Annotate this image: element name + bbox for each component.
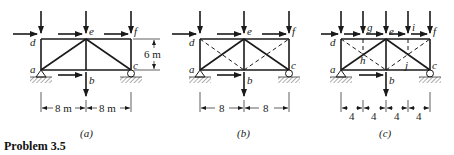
pin-support-icon [336,70,346,77]
node-label-d: d [189,36,195,48]
truss-diagram: d e f a b c 6 m 8 m 8 m (a) [0,0,454,155]
node-label-e: e [247,25,252,37]
height-dimension-label: 6 m [144,48,161,60]
roller-support-icon [427,70,434,77]
ground-hatch-icon [120,77,142,83]
pin-support-icon [36,70,46,77]
node-label-c: c [133,59,138,71]
span-label: 8 m [99,102,116,114]
truss-b: d e f a b c 8 8 (b) [172,11,300,140]
span-label: 8 [219,102,225,114]
node-label-b: b [247,74,253,86]
ground-hatch-icon [30,77,52,83]
truss-c-labels: d g e i f h j a b c [330,21,438,86]
node-label-g: g [367,21,373,33]
pin-support-icon [195,70,205,77]
node-label-b: b [89,74,95,86]
caption-a: (a) [80,127,93,140]
node-label-f: f [134,25,139,37]
node-label-b: b [389,74,395,86]
node-label-c: c [291,59,296,71]
truss-a-members [41,39,131,70]
node-label-i: i [412,21,415,33]
node-label-a: a [189,63,195,75]
node-label-f: f [433,25,438,37]
caption-b: (b) [237,127,250,140]
ground-hatch-icon [330,77,352,83]
node-label-f: f [292,25,297,37]
truss-c: d g e i f h j a b c 4 4 4 [321,11,441,140]
ground-hatch-icon [419,77,441,83]
span-label: 4 [394,110,400,122]
truss-c-span-dimensions: 4 4 4 4 [341,92,430,122]
span-label: 8 m [55,102,72,114]
caption-c: (c) [379,127,392,140]
roller-support-icon [128,70,135,77]
truss-a-loads [13,11,131,96]
truss-a: d e f a b c 6 m 8 m 8 m (a) [13,11,161,140]
node-label-e: e [89,25,94,37]
span-label: 8 [263,102,269,114]
node-label-h: h [360,54,366,66]
ground-hatch-icon [189,77,211,83]
truss-b-loads [172,11,289,96]
ground-hatch-icon [278,77,300,83]
node-label-e: e [389,25,394,37]
span-label: 4 [349,110,355,122]
truss-b-members [200,39,289,70]
span-label: 4 [371,110,377,122]
roller-support-icon [286,70,293,77]
span-label: 4 [416,110,422,122]
truss-c-members [341,39,430,70]
node-label-a: a [30,63,36,75]
node-label-d: d [30,36,36,48]
problem-title: Problem 3.5 [4,139,66,154]
node-label-a: a [330,63,336,75]
node-label-d: d [330,36,336,48]
node-label-c: c [432,59,437,71]
